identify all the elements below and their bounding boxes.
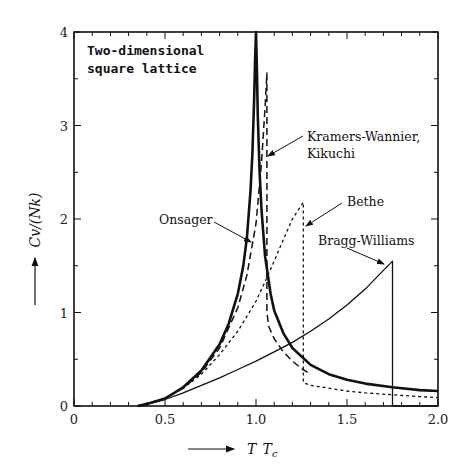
label-kikuchi: Kikuchi bbox=[307, 146, 355, 161]
y-axis-label: Cv/(Nk) bbox=[27, 193, 43, 248]
cv-vs-temperature-chart: 00.51.01.52.001234 Two-dimensional squar… bbox=[0, 0, 464, 470]
x-tick-label: 0.5 bbox=[155, 412, 176, 427]
x-axis-label: TTc bbox=[247, 441, 278, 459]
x-tick-label: 1.0 bbox=[246, 412, 267, 427]
arrow-onsager-icon bbox=[214, 222, 251, 242]
arrow-bragg-williams-icon bbox=[347, 248, 384, 264]
arrow-kramers-wannier-icon bbox=[268, 136, 303, 156]
label-kramers-wannier: Kramers-Wannier, bbox=[307, 129, 420, 144]
arrow-bethe-icon bbox=[306, 203, 342, 226]
series-kramers-wannier-kikuchi bbox=[138, 73, 311, 406]
label-onsager: Onsager bbox=[159, 212, 213, 227]
chart-title-line1: Two-dimensional bbox=[87, 43, 204, 58]
y-tick-label: 4 bbox=[60, 25, 68, 40]
y-tick-label: 1 bbox=[60, 306, 68, 321]
y-tick-label: 3 bbox=[60, 119, 68, 134]
x-tick-label: 0 bbox=[70, 412, 78, 427]
label-bragg-williams: Bragg-Williams bbox=[318, 233, 415, 248]
label-bethe: Bethe bbox=[347, 194, 384, 209]
series-bragg-williams bbox=[138, 261, 438, 406]
x-tick-label: 2.0 bbox=[428, 412, 449, 427]
chart-title-line2: square lattice bbox=[87, 61, 197, 76]
y-tick-label: 2 bbox=[60, 212, 68, 227]
x-tick-label: 1.5 bbox=[337, 412, 358, 427]
y-tick-label: 0 bbox=[60, 399, 68, 414]
